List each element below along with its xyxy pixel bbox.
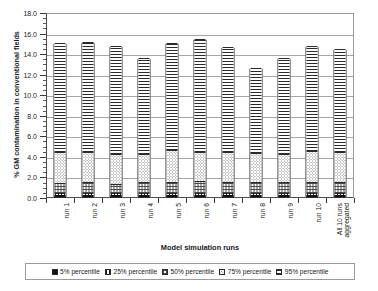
bar-segment-50-percentile [279,182,290,193]
bar-segment-25-percentile [195,193,206,195]
bar-segment-25-percentile [55,193,66,195]
x-tick-label: All 10 runsaggregated [336,203,350,237]
x-axis-title: Model simulation runs [46,243,354,252]
stacked-bar[interactable] [278,59,291,198]
bar-segment-75-percentile [195,152,206,181]
stacked-bar[interactable] [166,44,179,198]
x-tick-label-line: run 7 [231,203,238,219]
bar-segment-5-percentile [139,195,150,197]
bar-segment-5-percentile [111,195,122,197]
legend-item[interactable]: 25% percentile [105,268,157,275]
bar-segment-95-percentile [83,42,94,152]
bar-segment-5-percentile [55,195,66,197]
x-tick-label: run 1 [63,203,70,219]
bar-segment-25-percentile [279,193,290,195]
stacked-bar[interactable] [250,69,263,198]
x-tick-label: run 9 [287,203,294,219]
x-tick-label: run 10 [315,203,322,222]
y-tick-label: 12.0 [3,71,37,78]
y-tick-label: 0.0 [3,195,37,202]
stacked-bar[interactable] [334,50,347,198]
bar-segment-25-percentile [335,193,346,195]
bar-segment-75-percentile [83,152,94,182]
bar-segment-5-percentile [167,195,178,197]
bar-segment-50-percentile [55,183,66,194]
stacked-bar[interactable] [54,44,67,198]
bar-segment-75-percentile [167,150,178,182]
bar-slot[interactable] [214,13,242,198]
y-axis: 0.02.04.06.08.010.012.014.016.018.0 [0,0,46,199]
bar-segment-25-percentile [83,193,94,195]
bar-segment-5-percentile [335,195,346,197]
legend-label: 5% percentile [60,268,100,275]
bar-slot[interactable] [158,13,186,198]
legend-label: 50% percentile [171,268,215,275]
x-tick-label: run 4 [147,203,154,219]
legend-label: 95% percentile [285,268,329,275]
stacked-bar[interactable] [110,47,123,198]
bar-segment-95-percentile [111,46,122,153]
bar-segment-5-percentile [279,195,290,197]
bar-slot[interactable] [242,13,270,198]
bar-segment-75-percentile [55,152,66,183]
y-tick-label: 14.0 [3,51,37,58]
bar-segment-75-percentile [139,154,150,182]
bar-segment-50-percentile [167,182,178,193]
stacked-bar[interactable] [194,40,207,198]
legend-item[interactable]: 50% percentile [162,268,214,275]
legend-swatch-icon [276,269,282,275]
x-tick-label: run 8 [259,203,266,219]
legend-swatch-icon [219,269,225,275]
stacked-bar[interactable] [82,43,95,198]
bar-segment-95-percentile [55,43,66,152]
bar-slot[interactable] [46,13,74,198]
chart-legend: 5% percentile25% percentile50% percentil… [25,263,355,280]
bar-segment-5-percentile [251,195,262,197]
bar-slot[interactable] [326,13,354,198]
bar-segment-50-percentile [195,181,206,194]
legend-item[interactable]: 95% percentile [276,268,328,275]
bar-segment-5-percentile [195,195,206,197]
bar-slot[interactable] [102,13,130,198]
x-tick-label-line: run 9 [287,203,294,219]
y-tick-label: 18.0 [3,10,37,17]
bar-slot[interactable] [74,13,102,198]
bar-segment-50-percentile [111,184,122,194]
legend-label: 75% percentile [228,268,272,275]
x-tick-label-line: run 3 [119,203,126,219]
bar-slot[interactable] [270,13,298,198]
x-tick-label-line: run 2 [91,203,98,219]
bar-segment-75-percentile [111,154,122,184]
legend-swatch-icon [162,269,168,275]
bar-segment-95-percentile [335,49,346,152]
x-tick-mark [354,198,355,203]
y-tick-label: 10.0 [3,92,37,99]
x-axis-labels: run 1run 2run 3run 4run 5run 6run 7run 8… [46,203,354,243]
stacked-bar[interactable] [306,47,319,198]
stacked-bar[interactable] [222,48,235,198]
bar-segment-75-percentile [251,153,262,182]
legend-item[interactable]: 75% percentile [219,268,271,275]
x-tick-label: run 2 [91,203,98,219]
legend-item[interactable]: 5% percentile [52,268,100,275]
x-tick-label-line: run 8 [259,203,266,219]
bar-segment-25-percentile [139,193,150,195]
stacked-bar[interactable] [138,59,151,198]
legend-swatch-icon [52,269,58,275]
bar-segment-25-percentile [251,193,262,195]
bar-segment-50-percentile [307,182,318,194]
bar-segment-50-percentile [139,182,150,194]
bars-layer [46,13,354,198]
y-tick-label: 4.0 [3,153,37,160]
bar-segment-5-percentile [307,195,318,197]
bar-slot[interactable] [298,13,326,198]
bar-slot[interactable] [186,13,214,198]
bar-segment-5-percentile [223,195,234,197]
x-tick-label-line: All 10 runs [336,203,343,237]
bar-segment-95-percentile [139,58,150,154]
bar-segment-95-percentile [167,43,178,150]
bar-slot[interactable] [130,13,158,198]
bar-segment-50-percentile [223,182,234,193]
x-tick-label: run 3 [119,203,126,219]
y-tick-label: 16.0 [3,30,37,37]
